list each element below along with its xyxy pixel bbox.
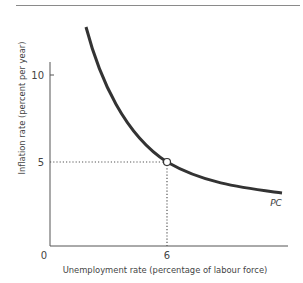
y-tick-label-5: 5	[38, 157, 44, 168]
y-tick-label-10: 10	[31, 70, 44, 81]
x-tick-label-6: 6	[164, 250, 170, 261]
y-axis-title: Inflation rate (percent per year)	[17, 41, 27, 174]
origin-label: 0	[41, 250, 47, 261]
x-axis-title: Unemployment rate (percentage of labour …	[63, 265, 268, 275]
phillips-curve-chart: 10 5 0 6 PC Unemployment rate (percentag…	[0, 0, 303, 283]
curve-label: PC	[270, 198, 282, 208]
phillips-curve	[86, 27, 282, 193]
equilibrium-point	[164, 159, 171, 166]
